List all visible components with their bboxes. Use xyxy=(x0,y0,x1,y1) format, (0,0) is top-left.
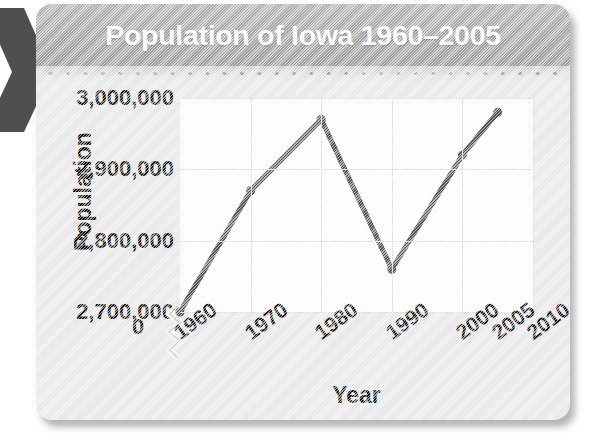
gridline-horizontal xyxy=(180,241,533,242)
gridline-horizontal xyxy=(180,169,533,170)
y-axis-tick-label: 2,800,000 xyxy=(76,230,174,252)
card-header: Population of Iowa 1960–2005 xyxy=(36,4,570,66)
x-axis-tick-labels: 1960197019801990200020052010 xyxy=(36,320,570,384)
chart-card: Population of Iowa 1960–2005 Population … xyxy=(36,4,570,420)
dotted-separator-dots xyxy=(42,71,566,76)
plot-area xyxy=(180,98,533,312)
gridline-vertical xyxy=(251,98,252,312)
gridline-horizontal xyxy=(180,98,533,99)
y-axis-tick-label: 3,000,000 xyxy=(76,87,174,109)
gridline-vertical xyxy=(462,98,463,312)
data-point-marker xyxy=(493,108,502,117)
dotted-separator-icon xyxy=(36,66,570,82)
gridline-vertical xyxy=(392,98,393,312)
chart-title: Population of Iowa 1960–2005 xyxy=(36,4,570,66)
y-axis-tick-label: 2,900,000 xyxy=(76,158,174,180)
gridline-vertical xyxy=(533,98,534,312)
gridline-vertical xyxy=(321,98,322,312)
chart-body: Population 3,000,0002,900,0002,800,0002,… xyxy=(36,82,570,420)
x-axis-title: Year xyxy=(180,382,533,409)
population-line-series xyxy=(180,98,533,312)
left-gutter xyxy=(0,0,36,445)
y-axis-tick-labels: 3,000,0002,900,0002,800,0002,700,000 xyxy=(36,98,174,338)
